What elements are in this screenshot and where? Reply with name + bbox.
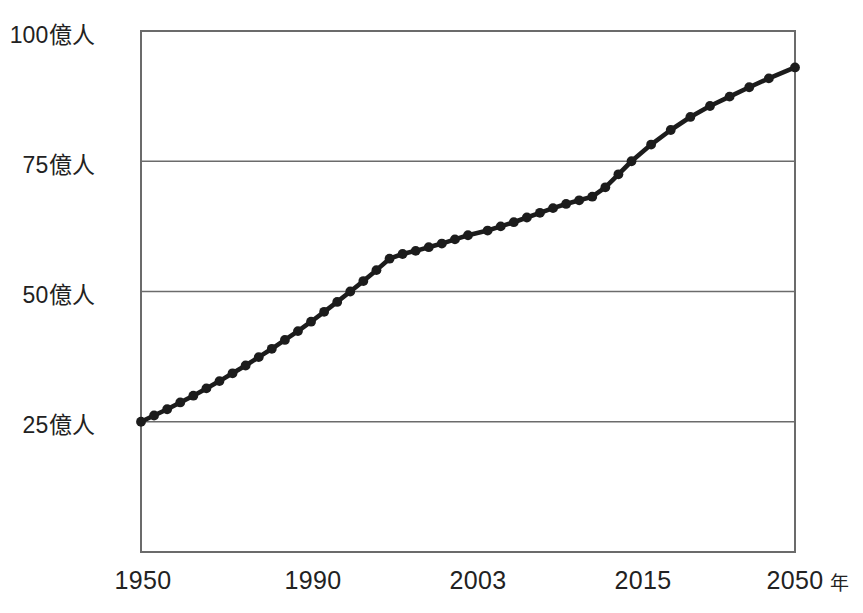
data-point [162, 404, 172, 414]
data-point [705, 101, 715, 111]
data-point [685, 112, 695, 122]
data-point [254, 352, 264, 362]
data-point [372, 265, 382, 275]
xtick-label-1990: 1990 [253, 568, 373, 593]
chart-figure: 100億人 75億人 50億人 25億人 1950 1990 2003 2015… [0, 0, 863, 613]
data-point [646, 140, 656, 150]
ytick-label-50: 50億人 [23, 284, 95, 307]
data-point [385, 254, 395, 264]
data-point [175, 398, 185, 408]
ytick-label-75: 75億人 [23, 154, 95, 177]
data-point [424, 242, 434, 252]
data-point [319, 307, 329, 317]
population-line [141, 67, 795, 421]
data-point [293, 326, 303, 336]
data-point [437, 239, 447, 249]
data-point [188, 391, 198, 401]
data-point [241, 361, 251, 371]
xtick-label-2003: 2003 [418, 568, 538, 593]
data-point [509, 217, 519, 227]
xtick-label-2015: 2015 [583, 568, 703, 593]
ytick-label-100: 100億人 [10, 24, 95, 47]
data-point [215, 376, 225, 386]
data-point [561, 199, 571, 209]
data-point [345, 287, 355, 297]
data-point [614, 169, 624, 179]
population-markers [136, 63, 800, 427]
data-point [306, 317, 316, 327]
data-point [764, 74, 774, 84]
data-point [666, 125, 676, 135]
data-point [228, 368, 238, 378]
data-point [280, 335, 290, 345]
data-point [744, 82, 754, 92]
x-axis-unit-label: 年 [830, 574, 849, 593]
data-point [202, 384, 212, 394]
xtick-label-1950: 1950 [83, 568, 203, 593]
data-point [332, 297, 342, 307]
data-point [149, 411, 159, 421]
chart-plot-svg [0, 0, 863, 613]
data-point [483, 226, 493, 236]
data-point [267, 344, 277, 354]
data-point [398, 249, 408, 259]
data-point [136, 417, 146, 427]
data-point [574, 195, 584, 205]
data-point [548, 203, 558, 213]
data-point [725, 92, 735, 102]
data-point [790, 63, 800, 73]
data-point [627, 156, 637, 166]
data-point [535, 208, 545, 218]
data-point [463, 230, 473, 240]
gridlines [141, 161, 795, 422]
data-point [450, 235, 460, 245]
data-point [600, 182, 610, 192]
data-point [358, 276, 368, 286]
ytick-label-25: 25億人 [23, 414, 95, 437]
data-point [411, 246, 421, 256]
data-point [496, 221, 506, 231]
data-point [587, 192, 597, 202]
data-point [522, 213, 532, 223]
